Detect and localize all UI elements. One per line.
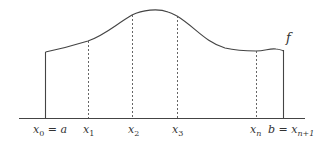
partition-diagram: f x0 = a x1 x2 x3 xn b = xn+1	[0, 0, 324, 143]
x1-sub: 1	[89, 129, 94, 138]
function-label-f: f	[286, 31, 291, 44]
b-sub: n+1	[297, 129, 314, 138]
tick-label-x0-a: x0 = a	[33, 124, 67, 135]
tick-label-x3: x3	[172, 124, 183, 135]
xn-sub: n	[256, 129, 261, 138]
b-equals-x: b = x	[268, 123, 297, 136]
x2-sub: 2	[134, 129, 139, 138]
tick-label-x2: x2	[128, 124, 139, 135]
diagram-canvas	[0, 0, 324, 143]
x0-equals-a: = a	[44, 123, 67, 136]
x3-sub: 3	[178, 129, 183, 138]
tick-label-b-xn1: b = xn+1	[268, 124, 314, 135]
function-curve	[46, 10, 284, 52]
tick-label-xn: xn	[250, 124, 261, 135]
tick-label-x1: x1	[83, 124, 94, 135]
